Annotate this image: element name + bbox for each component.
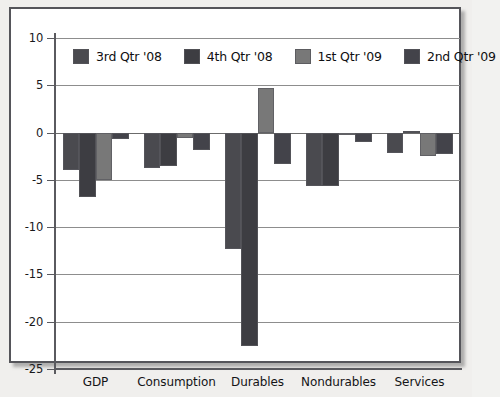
chart-frame: 1050-5-10-15-20-25 GDPConsumptionDurable… — [9, 7, 461, 363]
bar — [436, 133, 453, 155]
y-tick-label: -10 — [11, 220, 43, 234]
bar — [387, 133, 404, 154]
legend-entry: 4th Qtr '08 — [184, 49, 273, 64]
y-tick-label: -20 — [11, 315, 43, 329]
legend-swatch-icon — [73, 49, 89, 64]
category-label-gdp: GDP — [83, 375, 108, 389]
y-tick--20 — [47, 322, 56, 323]
legend-entry: 2nd Qtr '09 — [404, 49, 496, 64]
bar — [403, 131, 420, 133]
legend-swatch-icon — [295, 49, 311, 64]
y-tick--25 — [47, 369, 56, 370]
y-tick-label: -15 — [11, 267, 43, 281]
category-label-consumption: Consumption — [137, 375, 215, 389]
x-axis-line — [54, 368, 462, 370]
legend-swatch-icon — [404, 49, 420, 64]
y-tick--5 — [47, 180, 56, 181]
bar — [306, 133, 323, 187]
legend-label: 2nd Qtr '09 — [427, 49, 496, 64]
bar — [225, 133, 242, 249]
chart-legend: 3rd Qtr '084th Qtr '081st Qtr '092nd Qtr… — [73, 49, 500, 64]
y-tick-label: 0 — [11, 126, 43, 140]
bar — [355, 133, 372, 142]
bar — [258, 88, 275, 132]
y-tick-5 — [47, 85, 56, 86]
gridline--10 — [55, 227, 460, 228]
bar — [79, 133, 96, 197]
y-tick-label: 5 — [11, 78, 43, 92]
bar — [274, 133, 291, 164]
y-tick-label: 10 — [11, 31, 43, 45]
bar — [193, 133, 210, 150]
legend-swatch-icon — [184, 49, 200, 64]
bar — [112, 133, 129, 140]
gridline-10 — [55, 38, 460, 39]
legend-entry: 1st Qtr '09 — [295, 49, 382, 64]
y-tick-label: -5 — [11, 173, 43, 187]
legend-entry: 3rd Qtr '08 — [73, 49, 162, 64]
y-tick-0 — [47, 133, 56, 134]
gridline-5 — [55, 85, 460, 86]
bar — [177, 133, 194, 139]
y-tick--10 — [47, 227, 56, 228]
legend-label: 1st Qtr '09 — [318, 49, 382, 64]
bar — [96, 133, 113, 180]
category-label-nondurables: Nondurables — [301, 375, 376, 389]
bar — [160, 133, 177, 166]
bar — [241, 133, 258, 347]
bar — [144, 133, 161, 169]
bar — [63, 133, 80, 171]
y-tick-10 — [47, 38, 56, 39]
bar — [322, 133, 339, 187]
gridline--5 — [55, 180, 460, 181]
category-label-durables: Durables — [231, 375, 284, 389]
gridline--20 — [55, 322, 460, 323]
bar — [420, 133, 437, 157]
legend-label: 3rd Qtr '08 — [96, 49, 162, 64]
y-tick--15 — [47, 274, 56, 275]
bar — [339, 133, 356, 135]
y-tick-label: -25 — [11, 362, 43, 376]
category-label-services: Services — [395, 375, 445, 389]
y-axis-line — [54, 33, 56, 374]
gridline--15 — [55, 274, 460, 275]
legend-label: 4th Qtr '08 — [207, 49, 273, 64]
